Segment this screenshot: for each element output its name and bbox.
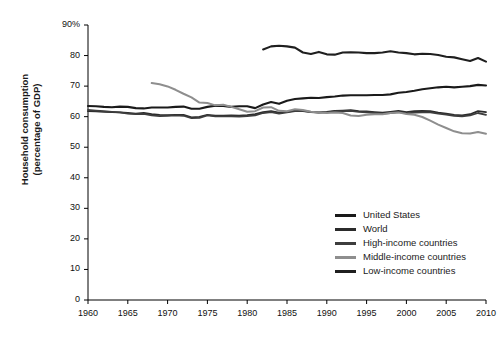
- x-axis-tick-label: 1995: [352, 308, 382, 318]
- x-axis-tick-label: 1965: [113, 308, 143, 318]
- legend-label: Low-income countries: [363, 266, 455, 276]
- x-axis-tick-label: 2010: [471, 308, 501, 318]
- legend-label: High-income countries: [363, 238, 458, 248]
- legend-item[interactable]: High-income countries: [335, 236, 466, 250]
- legend-label: Middle-income countries: [363, 252, 466, 262]
- x-axis-tick-label: 1960: [73, 308, 103, 318]
- y-axis-tick-label: 0: [54, 294, 80, 304]
- legend-swatch-line-icon: [335, 256, 356, 259]
- legend-swatch-line-icon: [335, 242, 356, 245]
- y-axis-tick-label: 50: [54, 141, 80, 151]
- y-axis-tick-label: 70: [54, 80, 80, 90]
- y-axis-tick-label: 90%: [54, 19, 80, 29]
- y-axis-tick-label: 40: [54, 172, 80, 182]
- y-axis-tick-label: 20: [54, 233, 80, 243]
- chart-figure: Household consumption (percentage of GDP…: [0, 0, 502, 342]
- legend-item[interactable]: Low-income countries: [335, 264, 466, 278]
- x-axis-tick-label: 2000: [391, 308, 421, 318]
- chart-legend: United StatesWorldHigh-income countriesM…: [335, 208, 466, 278]
- legend-label: World: [363, 224, 388, 234]
- x-axis-tick-label: 1985: [272, 308, 302, 318]
- legend-item[interactable]: World: [335, 222, 466, 236]
- x-axis-tick-label: 1980: [232, 308, 262, 318]
- x-axis-tick-label: 1970: [153, 308, 183, 318]
- y-axis-tick-label: 10: [54, 263, 80, 273]
- series-line: [263, 46, 486, 62]
- legend-swatch-line-icon: [335, 228, 356, 231]
- y-axis-tick-label: 30: [54, 202, 80, 212]
- legend-label: United States: [363, 210, 420, 220]
- y-axis-tick-label: 60: [54, 111, 80, 121]
- x-axis-tick-label: 2005: [431, 308, 461, 318]
- legend-item[interactable]: United States: [335, 208, 466, 222]
- legend-swatch-line-icon: [335, 214, 356, 217]
- x-axis-tick-label: 1975: [192, 308, 222, 318]
- series-line: [88, 85, 486, 109]
- y-axis-tick-label: 80: [54, 50, 80, 60]
- legend-swatch-line-icon: [335, 270, 356, 273]
- legend-item[interactable]: Middle-income countries: [335, 250, 466, 264]
- x-axis-tick-label: 1990: [312, 308, 342, 318]
